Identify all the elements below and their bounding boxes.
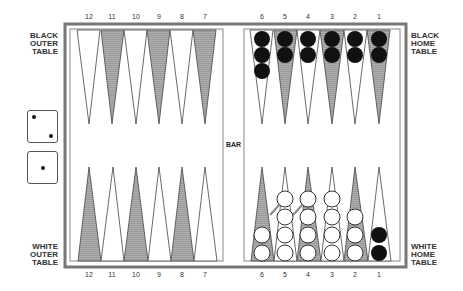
point-number: 1 (372, 13, 386, 20)
point-number: 1 (372, 271, 386, 278)
point-number: 2 (348, 13, 362, 20)
point-number: 11 (105, 271, 119, 278)
point-number: 6 (255, 271, 269, 278)
point-number: 8 (175, 271, 189, 278)
point-number: 10 (129, 13, 143, 20)
point-number: 2 (348, 271, 362, 278)
point-number: 3 (325, 13, 339, 20)
point-number: 12 (82, 271, 96, 278)
point-number: 10 (129, 271, 143, 278)
point-number: 9 (152, 13, 166, 20)
point-number: 4 (301, 271, 315, 278)
point-number: 8 (175, 13, 189, 20)
point-number: 7 (198, 271, 212, 278)
point-number: 9 (152, 271, 166, 278)
point-number: 3 (325, 271, 339, 278)
bar-label: BAR (226, 141, 241, 148)
point-number: 5 (278, 13, 292, 20)
point-number: 12 (82, 13, 96, 20)
point-number: 4 (301, 13, 315, 20)
point-number: 7 (198, 13, 212, 20)
point-number: 6 (255, 13, 269, 20)
point-number: 11 (105, 13, 119, 20)
point-number: 5 (278, 271, 292, 278)
